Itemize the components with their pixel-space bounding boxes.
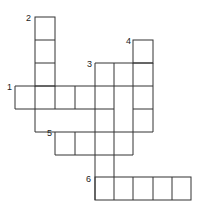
clue-number-6: 6 xyxy=(86,175,91,184)
clue-number-4: 4 xyxy=(126,37,131,46)
clue-number-2: 2 xyxy=(26,14,31,23)
clue-number-1: 1 xyxy=(7,83,12,92)
crossword-grid xyxy=(0,0,206,211)
clue-number-5: 5 xyxy=(47,129,52,138)
clue-number-3: 3 xyxy=(87,60,92,69)
